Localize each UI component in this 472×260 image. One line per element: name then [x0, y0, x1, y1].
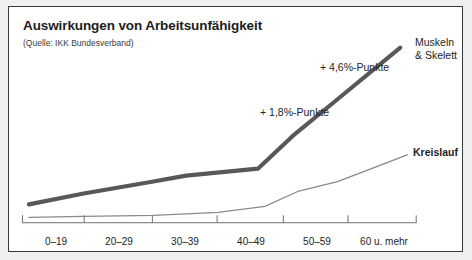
series-label-kreislauf: Kreislauf — [413, 146, 458, 159]
annotation-plus-4-6: + 4,6%-Punkte — [320, 61, 389, 73]
chart-panel: Auswirkungen von Arbeitsunfähigkeit (Que… — [8, 6, 463, 252]
series-label-muskeln-skelett: Muskeln & Skelett — [415, 36, 457, 61]
annotation-plus-1-8: + 1,8%-Punkte — [260, 106, 329, 118]
x-tick-label-5: 60 u. mehr — [338, 236, 430, 247]
series-label-muskeln-line1: Muskeln — [415, 36, 457, 49]
line-chart-plot — [9, 7, 462, 251]
series-label-muskeln-line2: & Skelett — [415, 49, 457, 62]
series-line-kreislauf — [29, 155, 407, 217]
